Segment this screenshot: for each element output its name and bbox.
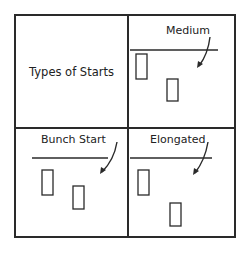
panel-elongated: Elongated [128, 128, 236, 238]
panel-bunch-start: Bunch Start [16, 128, 127, 238]
medium-start-figure [128, 16, 236, 127]
bunch-start-figure [16, 128, 127, 238]
elongated-start-figure [128, 128, 236, 238]
starts-diagram: Types of Starts Medium Bunch Start Elong… [14, 14, 236, 238]
diagram-title: Types of Starts [29, 65, 114, 79]
title-panel: Types of Starts [16, 16, 127, 127]
panel-medium: Medium [128, 16, 236, 127]
